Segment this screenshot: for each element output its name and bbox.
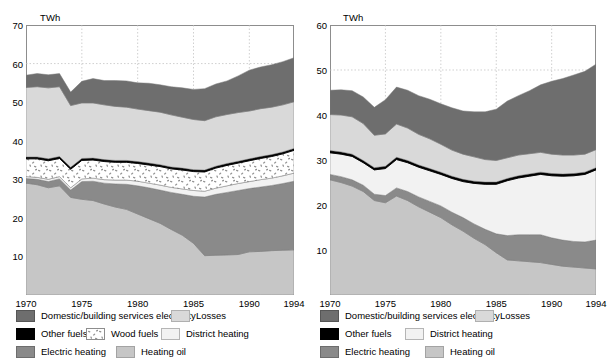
chart-panel-left: TWh 10203040506070 197019751980198519901… bbox=[0, 0, 302, 363]
x-tick-label: 1970 bbox=[15, 298, 36, 309]
y-tick-label: 40 bbox=[303, 110, 327, 121]
y-tick-label: 60 bbox=[0, 58, 23, 69]
legend-item-other[interactable]: Other fuels bbox=[320, 328, 391, 340]
legend-label: Electric heating bbox=[41, 346, 106, 358]
legend-row: Electric heatingHeating oil bbox=[16, 346, 296, 360]
stacked-area-chart-left bbox=[26, 25, 294, 295]
x-tick-label: 1990 bbox=[239, 298, 260, 309]
legend-label: Heating oil bbox=[141, 346, 186, 358]
y-tick-label: 10 bbox=[303, 245, 327, 256]
legend-swatch-other-icon bbox=[320, 328, 339, 340]
y-tick-label: 50 bbox=[303, 65, 327, 76]
legend-swatch-domestic-icon bbox=[16, 310, 35, 322]
legend-row: Other fuelsDistrict heating bbox=[320, 328, 600, 342]
legend-swatch-electric-icon bbox=[320, 346, 339, 358]
legend-row: Other fuelsWood fuelsDistrict heating bbox=[16, 328, 296, 342]
x-tick-label: 1975 bbox=[71, 298, 92, 309]
legend-label: Other fuels bbox=[345, 328, 391, 340]
x-tick-label: 1975 bbox=[375, 298, 396, 309]
stacked-area-chart-right bbox=[330, 25, 596, 295]
x-tick-label: 1985 bbox=[486, 298, 507, 309]
legend-left: Domestic/building services electricityLo… bbox=[16, 310, 296, 363]
y-axis-unit-label-right: TWh bbox=[343, 12, 363, 23]
y-tick-label: 30 bbox=[303, 155, 327, 166]
y-tick-label: 40 bbox=[0, 135, 23, 146]
y-tick-label: 30 bbox=[0, 174, 23, 185]
legend-item-district[interactable]: District heating bbox=[161, 328, 249, 340]
x-tick-label: 1980 bbox=[430, 298, 451, 309]
legend-row: Domestic/building services electricityLo… bbox=[16, 310, 296, 324]
plot-area-right bbox=[330, 25, 596, 295]
x-tick-label: 1970 bbox=[319, 298, 340, 309]
x-tick-label: 1980 bbox=[127, 298, 148, 309]
legend-row: Electric heatingHeating oil bbox=[320, 346, 600, 360]
legend-swatch-losses-icon bbox=[171, 310, 190, 322]
x-tick-label: 1990 bbox=[541, 298, 562, 309]
legend-swatch-heatingoil-icon bbox=[425, 346, 444, 358]
legend-item-electric[interactable]: Electric heating bbox=[320, 346, 410, 358]
legend-item-other[interactable]: Other fuels bbox=[16, 328, 87, 340]
legend-label: Losses bbox=[196, 310, 226, 322]
legend-swatch-domestic-icon bbox=[320, 310, 339, 322]
plot-area-left bbox=[26, 25, 294, 295]
legend-swatch-heatingoil-icon bbox=[116, 346, 135, 358]
legend-swatch-losses-icon bbox=[475, 310, 494, 322]
legend-swatch-district-icon bbox=[161, 328, 180, 340]
y-axis-unit-label-left: TWh bbox=[40, 12, 60, 23]
legend-item-domestic[interactable]: Domestic/building services electricity bbox=[16, 310, 196, 322]
legend-label: Electric heating bbox=[345, 346, 410, 358]
legend-swatch-wood-icon bbox=[86, 328, 105, 340]
legend-item-losses[interactable]: Losses bbox=[171, 310, 226, 322]
legend-item-electric[interactable]: Electric heating bbox=[16, 346, 106, 358]
legend-swatch-district-icon bbox=[405, 328, 424, 340]
legend-item-heatingoil[interactable]: Heating oil bbox=[425, 346, 495, 358]
legend-item-district[interactable]: District heating bbox=[405, 328, 493, 340]
y-tick-label: 20 bbox=[0, 212, 23, 223]
legend-label: Wood fuels bbox=[111, 328, 158, 340]
legend-right: Domestic/building services electricityLo… bbox=[320, 310, 600, 363]
legend-item-losses[interactable]: Losses bbox=[475, 310, 530, 322]
chart-panel-right: TWh 102030405060 19701975198019851990199… bbox=[303, 0, 605, 363]
y-tick-label: 20 bbox=[303, 200, 327, 211]
legend-item-domestic[interactable]: Domestic/building services electricity bbox=[320, 310, 500, 322]
y-tick-label: 50 bbox=[0, 97, 23, 108]
legend-swatch-electric-icon bbox=[16, 346, 35, 358]
legend-label: District heating bbox=[430, 328, 493, 340]
legend-swatch-other-icon bbox=[16, 328, 35, 340]
legend-label: Losses bbox=[500, 310, 530, 322]
x-tick-label: 1994 bbox=[585, 298, 606, 309]
legend-item-heatingoil[interactable]: Heating oil bbox=[116, 346, 186, 358]
legend-row: Domestic/building services electricityLo… bbox=[320, 310, 600, 324]
y-tick-label: 10 bbox=[0, 251, 23, 262]
y-tick-label: 70 bbox=[0, 20, 23, 31]
legend-label: District heating bbox=[186, 328, 249, 340]
y-tick-label: 60 bbox=[303, 20, 327, 31]
legend-item-wood[interactable]: Wood fuels bbox=[86, 328, 158, 340]
legend-label: Other fuels bbox=[41, 328, 87, 340]
x-tick-label: 1994 bbox=[283, 298, 304, 309]
legend-label: Heating oil bbox=[450, 346, 495, 358]
x-tick-label: 1985 bbox=[183, 298, 204, 309]
